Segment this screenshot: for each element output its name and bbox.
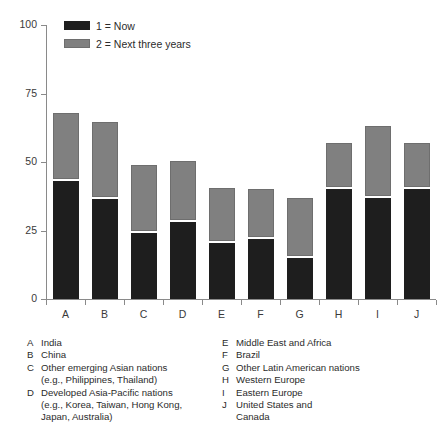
- x-tick-mark: [397, 300, 398, 305]
- bar-group: [131, 25, 157, 299]
- key-description-line: (e.g., Philippines, Thailand): [41, 374, 217, 386]
- bar-segment-next-three-years: [131, 165, 157, 232]
- key-description-line: Brazil: [236, 349, 427, 361]
- key-entry: FBrazil: [222, 349, 427, 361]
- key-letter: E: [222, 337, 236, 349]
- x-tick-mark: [163, 300, 164, 305]
- bar-segment-now: [170, 222, 196, 299]
- key-entry: GOther Latin American nations: [222, 362, 427, 374]
- x-tick-label: H: [326, 308, 352, 320]
- key-description: Developed Asia-Pacific nations(e.g., Kor…: [41, 387, 217, 424]
- x-tick-mark: [280, 300, 281, 305]
- key-letter: D: [27, 387, 41, 399]
- key-entry: HWestern Europe: [222, 374, 427, 386]
- bar-segment-now: [248, 239, 274, 299]
- category-key-left-column: AIndiaBChinaCOther emerging Asian nation…: [27, 337, 217, 424]
- key-description: Other Latin American nations: [236, 362, 427, 374]
- x-tick-mark: [202, 300, 203, 305]
- key-entry: DDeveloped Asia-Pacific nations(e.g., Ko…: [27, 387, 217, 424]
- bar-segment-now: [92, 199, 118, 299]
- bar-group: [365, 25, 391, 299]
- x-tick-label: C: [131, 308, 157, 320]
- bar-group: [404, 25, 430, 299]
- x-tick-mark: [241, 300, 242, 305]
- legend-label-next-three-years: 2 = Next three years: [96, 38, 191, 50]
- y-tick-label: 75: [25, 87, 37, 100]
- bar-segment-next-three-years: [209, 188, 235, 241]
- key-letter: G: [222, 362, 236, 374]
- y-tick-label: 25: [25, 224, 37, 237]
- bar-group: [287, 25, 313, 299]
- key-letter: I: [222, 387, 236, 399]
- key-letter: F: [222, 349, 236, 361]
- key-letter: H: [222, 374, 236, 386]
- key-description-line: Other emerging Asian nations: [41, 362, 217, 374]
- bar-segment-now: [404, 189, 430, 299]
- key-description-line: China: [41, 349, 217, 361]
- key-entry: COther emerging Asian nations(e.g., Phil…: [27, 362, 217, 387]
- y-axis-tick: 100: [0, 25, 46, 26]
- x-tick-mark: [358, 300, 359, 305]
- legend-swatch-now-icon: [64, 21, 90, 30]
- x-tick-mark: [85, 300, 86, 305]
- key-description-line: Japan, Australia): [41, 411, 217, 423]
- bar-group: [53, 25, 79, 299]
- key-entry: IEastern Europe: [222, 387, 427, 399]
- bar-group: [326, 25, 352, 299]
- x-tick-label: E: [209, 308, 235, 320]
- bar-group: [92, 25, 118, 299]
- key-description: Brazil: [236, 349, 427, 361]
- bar-segment-next-three-years: [404, 143, 430, 188]
- key-description: United States andCanada: [236, 399, 427, 424]
- key-letter: C: [27, 362, 41, 374]
- bar-segment-next-three-years: [92, 122, 118, 197]
- x-tick-label: F: [248, 308, 274, 320]
- x-axis-ticks: ABCDEFGHIJ: [46, 300, 436, 324]
- y-tick-label: 0: [31, 292, 37, 305]
- legend-item-next-three-years: 2 = Next three years: [64, 36, 191, 51]
- x-tick-mark: [46, 300, 47, 305]
- bar-segment-next-three-years: [287, 198, 313, 256]
- category-key-right-column: EMiddle East and AfricaFBrazilGOther Lat…: [222, 337, 427, 424]
- key-description-line: India: [41, 337, 217, 349]
- key-description: Western Europe: [236, 374, 427, 386]
- legend-item-now: 1 = Now: [64, 18, 191, 33]
- bar-segment-next-three-years: [53, 113, 79, 180]
- bars-layer: [46, 25, 436, 299]
- y-axis-tick: 0: [0, 299, 46, 300]
- bar-group: [209, 25, 235, 299]
- key-letter: B: [27, 349, 41, 361]
- key-entry: EMiddle East and Africa: [222, 337, 427, 349]
- bar-segment-next-three-years: [248, 189, 274, 236]
- key-description-line: Canada: [236, 411, 427, 423]
- x-tick-label: D: [170, 308, 196, 320]
- bar-segment-next-three-years: [365, 126, 391, 195]
- chart-legend: 1 = Now 2 = Next three years: [64, 18, 191, 54]
- bar-segment-now: [365, 198, 391, 299]
- key-description-line: Middle East and Africa: [236, 337, 427, 349]
- bar-segment-next-three-years: [326, 143, 352, 188]
- key-description-line: Developed Asia-Pacific nations: [41, 387, 217, 399]
- legend-swatch-next-icon: [64, 39, 90, 48]
- key-description-line: United States and: [236, 399, 427, 411]
- key-description: Eastern Europe: [236, 387, 427, 399]
- x-tick-label: B: [92, 308, 118, 320]
- y-tick-label: 100: [19, 18, 37, 31]
- x-tick-label: I: [365, 308, 391, 320]
- bar-segment-now: [326, 189, 352, 299]
- legend-label-now: 1 = Now: [96, 20, 135, 32]
- bar-segment-now: [131, 233, 157, 299]
- y-tick-label: 50: [25, 155, 37, 168]
- bar-group: [170, 25, 196, 299]
- key-description-line: Western Europe: [236, 374, 427, 386]
- stacked-bar-chart: Percent 0255075100 ABCDEFGHIJ 1 = Now 2 …: [0, 0, 443, 444]
- y-axis-tick: 25: [0, 231, 46, 232]
- bar-segment-now: [209, 243, 235, 299]
- bar-segment-now: [287, 258, 313, 299]
- key-description-line: Other Latin American nations: [236, 362, 427, 374]
- x-tick-label: A: [53, 308, 79, 320]
- y-axis-tick: 50: [0, 162, 46, 163]
- bar-segment-now: [53, 181, 79, 299]
- key-description: China: [41, 349, 217, 361]
- key-letter: J: [222, 399, 236, 411]
